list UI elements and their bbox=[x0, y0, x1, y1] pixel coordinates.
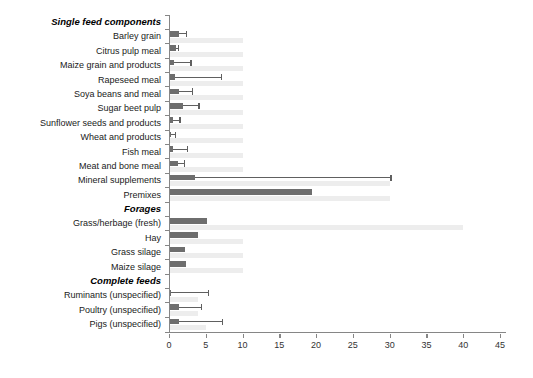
section-header-row: Forages bbox=[0, 202, 533, 216]
value-bar bbox=[169, 189, 312, 195]
error-bar-cap bbox=[179, 117, 180, 123]
category-row: Maize silage bbox=[0, 260, 533, 274]
secondary-bar bbox=[169, 66, 243, 71]
bar-area bbox=[169, 188, 533, 202]
error-bar-cap bbox=[198, 103, 199, 109]
x-axis-tick bbox=[463, 334, 464, 338]
bar-area bbox=[169, 116, 533, 130]
category-row: Ruminants (unspecified) bbox=[0, 288, 533, 302]
secondary-bar bbox=[169, 110, 243, 115]
secondary-bar bbox=[169, 38, 243, 43]
value-bar bbox=[169, 89, 179, 95]
bar-area bbox=[169, 101, 533, 115]
secondary-bar bbox=[169, 253, 243, 258]
category-row: Maize grain and products bbox=[0, 58, 533, 72]
error-bar-cap bbox=[390, 175, 391, 181]
bar-area bbox=[169, 260, 533, 274]
bar-area bbox=[169, 317, 533, 331]
bar-area bbox=[169, 303, 533, 317]
category-row: Barley grain bbox=[0, 29, 533, 43]
category-row: Poultry (unspecified) bbox=[0, 303, 533, 317]
error-bar bbox=[179, 91, 193, 92]
error-bar-cap bbox=[186, 31, 187, 37]
secondary-bar bbox=[169, 196, 390, 201]
error-bar-cap bbox=[192, 88, 193, 94]
x-axis-tick-label: 20 bbox=[311, 340, 321, 350]
value-bar bbox=[169, 304, 179, 310]
section-header-label: Single feed components bbox=[0, 15, 169, 29]
bar-area bbox=[169, 58, 533, 72]
category-label: Maize silage bbox=[0, 260, 169, 274]
category-label: Sunflower seeds and products bbox=[0, 116, 169, 130]
category-label: Grass silage bbox=[0, 245, 169, 259]
error-bar bbox=[176, 48, 179, 49]
category-label: Ruminants (unspecified) bbox=[0, 288, 169, 302]
error-bar-cap bbox=[175, 132, 176, 138]
x-axis-tick bbox=[353, 334, 354, 338]
x-axis-tick bbox=[279, 334, 280, 338]
bar-area bbox=[169, 231, 533, 245]
category-label: Fish meal bbox=[0, 145, 169, 159]
error-bar-cap bbox=[221, 74, 222, 80]
bar-area bbox=[169, 173, 533, 187]
secondary-bar bbox=[169, 297, 198, 302]
error-bar-cap bbox=[184, 160, 185, 166]
bar-area bbox=[169, 159, 533, 173]
category-row: Sugar beet pulp bbox=[0, 101, 533, 115]
category-label: Pigs (unspecified) bbox=[0, 317, 169, 331]
error-bar bbox=[171, 292, 209, 293]
error-bar-cap bbox=[190, 60, 191, 66]
bar-area bbox=[169, 44, 533, 58]
x-axis-tick bbox=[316, 334, 317, 338]
value-bar bbox=[169, 218, 207, 224]
category-label: Meat and bone meal bbox=[0, 159, 169, 173]
error-bar bbox=[178, 163, 185, 164]
x-axis-tick-label: 10 bbox=[238, 340, 248, 350]
x-axis-tick-label: 0 bbox=[166, 340, 171, 350]
secondary-bar bbox=[169, 138, 243, 143]
bar-area bbox=[169, 145, 533, 159]
section-header-row: Single feed components bbox=[0, 15, 533, 29]
value-bar bbox=[169, 31, 179, 37]
error-bar bbox=[179, 307, 203, 308]
bar-area bbox=[169, 130, 533, 144]
category-label: Poultry (unspecified) bbox=[0, 303, 169, 317]
category-row: Pigs (unspecified) bbox=[0, 317, 533, 331]
category-row: Mineral supplements bbox=[0, 173, 533, 187]
value-bar bbox=[169, 103, 183, 109]
secondary-bar bbox=[169, 153, 243, 158]
x-axis-tick bbox=[500, 334, 501, 338]
x-axis-tick bbox=[169, 334, 170, 338]
secondary-bar bbox=[169, 81, 243, 86]
category-row: Grass/herbage (fresh) bbox=[0, 216, 533, 230]
section-header-label: Forages bbox=[0, 202, 169, 216]
error-bar-cap bbox=[187, 146, 188, 152]
category-row: Wheat and products bbox=[0, 130, 533, 144]
x-axis-tick-label: 40 bbox=[458, 340, 468, 350]
category-label: Grass/herbage (fresh) bbox=[0, 216, 169, 230]
secondary-bar bbox=[169, 311, 198, 316]
category-label: Sugar beet pulp bbox=[0, 101, 169, 115]
category-row: Grass silage bbox=[0, 245, 533, 259]
secondary-bar bbox=[169, 239, 243, 244]
feed-components-bar-chart: Single feed componentsBarley grainCitrus… bbox=[0, 0, 533, 378]
error-bar-cap bbox=[208, 290, 209, 296]
bar-area bbox=[169, 29, 533, 43]
secondary-bar bbox=[169, 225, 463, 230]
category-row: Meat and bone meal bbox=[0, 159, 533, 173]
error-bar bbox=[179, 33, 187, 34]
category-row: Rapeseed meal bbox=[0, 73, 533, 87]
secondary-bar bbox=[169, 268, 243, 273]
section-header-label: Complete feeds bbox=[0, 274, 169, 288]
bar-area bbox=[169, 245, 533, 259]
bar-area bbox=[169, 274, 533, 288]
category-label: Mineral supplements bbox=[0, 173, 169, 187]
category-row: Soya beans and meal bbox=[0, 87, 533, 101]
bar-area bbox=[169, 216, 533, 230]
category-row: Hay bbox=[0, 231, 533, 245]
category-row: Premixes bbox=[0, 188, 533, 202]
error-bar-cap bbox=[178, 45, 179, 51]
value-bar bbox=[169, 319, 179, 325]
value-bar bbox=[169, 161, 178, 167]
bar-area bbox=[169, 288, 533, 302]
